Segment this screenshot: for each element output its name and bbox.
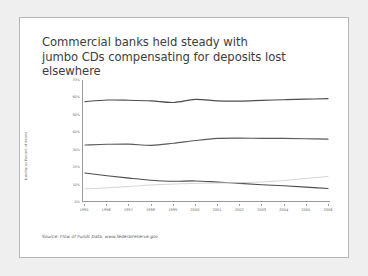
source-note: Source: Flow of Funds Data, www.federalr… xyxy=(42,234,158,239)
y-tick-label: 30% xyxy=(72,148,80,152)
x-tick-mark xyxy=(217,204,218,206)
y-tick-label: 0% xyxy=(75,200,80,204)
x-tick-mark xyxy=(195,204,196,206)
x-tick-mark xyxy=(173,204,174,206)
plot-wrapper: 0%10%20%30%40%50%60%70% xyxy=(62,80,330,202)
plot-area xyxy=(82,80,330,202)
x-tick-label: 1995 xyxy=(79,208,88,212)
x-tick-mark xyxy=(106,204,107,206)
x-tick-label: 2001 xyxy=(213,208,222,212)
x-tick-label: 1996 xyxy=(102,208,111,212)
x-tick-mark xyxy=(306,204,307,206)
x-tick-label: 1998 xyxy=(146,208,155,212)
x-tick-mark xyxy=(151,204,152,206)
x-tick-mark xyxy=(128,204,129,206)
x-tick-label: 2006 xyxy=(323,208,332,212)
line-chart-svg xyxy=(83,80,330,201)
y-tick-label: 50% xyxy=(72,113,80,117)
x-tick-mark xyxy=(84,204,85,206)
chart-line xyxy=(85,173,328,189)
chart-line xyxy=(85,138,328,145)
y-axis-ticks: 0%10%20%30%40%50%60%70% xyxy=(62,80,82,202)
x-tick-label: 1997 xyxy=(124,208,133,212)
slide-card: Commercial banks held steady with jumbo … xyxy=(19,17,349,258)
y-tick-label: 40% xyxy=(72,130,80,134)
y-axis-title: Liability as Percent of Assets xyxy=(24,118,28,194)
screenshot-page: Commercial banks held steady with jumbo … xyxy=(0,0,368,276)
y-tick-label: 10% xyxy=(72,183,80,187)
x-axis-ticks: 1995199619971998199920002001200220032004… xyxy=(82,204,330,216)
x-tick-mark xyxy=(328,204,329,206)
x-tick-mark xyxy=(239,204,240,206)
y-tick-label: 20% xyxy=(72,165,80,169)
x-tick-mark xyxy=(284,204,285,206)
x-tick-label: 2002 xyxy=(235,208,244,212)
x-tick-label: 2005 xyxy=(301,208,310,212)
x-tick-label: 2004 xyxy=(279,208,288,212)
page-title: Commercial banks held steady with jumbo … xyxy=(42,35,334,79)
x-tick-label: 1999 xyxy=(168,208,177,212)
chart-line xyxy=(85,176,328,188)
x-tick-label: 2000 xyxy=(190,208,199,212)
y-tick-label: 60% xyxy=(72,95,80,99)
chart-line xyxy=(85,99,328,103)
x-tick-mark xyxy=(261,204,262,206)
y-tick-label: 70% xyxy=(72,78,80,82)
chart-container: Liability as Percent of Assets 0%10%20%3… xyxy=(40,80,332,218)
x-tick-label: 2003 xyxy=(257,208,266,212)
